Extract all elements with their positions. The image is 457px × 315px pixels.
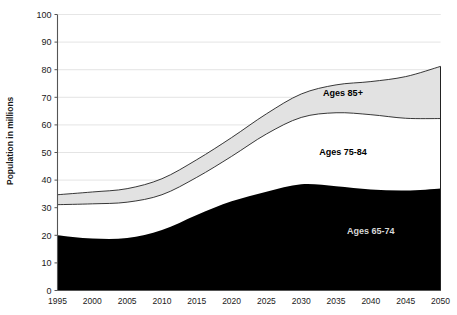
y-tick-label-50: 50: [41, 148, 51, 158]
series-label-ages-75-84: Ages 75-84: [319, 147, 367, 157]
x-tick-label-2030: 2030: [292, 296, 311, 306]
y-tick-label-20: 20: [41, 231, 51, 241]
population-projection-area-chart: 0102030405060708090100 19952000200520102…: [0, 0, 457, 315]
x-tick-label-2010: 2010: [152, 296, 171, 306]
x-tick-label-2035: 2035: [327, 296, 346, 306]
y-tick-label-0: 0: [46, 286, 51, 296]
y-tick-label-10: 10: [41, 258, 51, 268]
y-axis-tick-labels: 0102030405060708090100: [36, 10, 57, 296]
x-axis-tick-labels: 1995200020052010201520202025203020352040…: [48, 296, 450, 306]
stacked-areas-group: [58, 66, 441, 290]
y-tick-label-60: 60: [41, 120, 51, 130]
series-label-ages-85-: Ages 85+: [323, 88, 363, 98]
y-tick-label-80: 80: [41, 65, 51, 75]
x-tick-label-2050: 2050: [431, 296, 450, 306]
y-axis-title-group: Population in millions: [5, 96, 15, 185]
series-label-ages-65-74: Ages 65-74: [347, 226, 395, 236]
y-tick-label-40: 40: [41, 175, 51, 185]
x-tick-label-2020: 2020: [222, 296, 241, 306]
x-tick-label-2045: 2045: [396, 296, 415, 306]
y-tick-label-30: 30: [41, 203, 51, 213]
y-tick-label-70: 70: [41, 93, 51, 103]
x-tick-label-2040: 2040: [361, 296, 380, 306]
y-tick-label-100: 100: [36, 10, 51, 20]
chart-container: 0102030405060708090100 19952000200520102…: [0, 0, 457, 315]
x-tick-label-2025: 2025: [257, 296, 276, 306]
y-axis-title: Population in millions: [5, 96, 15, 185]
y-tick-label-90: 90: [41, 37, 51, 47]
x-tick-label-1995: 1995: [48, 296, 67, 306]
x-tick-label-2005: 2005: [118, 296, 137, 306]
x-tick-label-2000: 2000: [83, 296, 102, 306]
x-tick-label-2015: 2015: [187, 296, 206, 306]
